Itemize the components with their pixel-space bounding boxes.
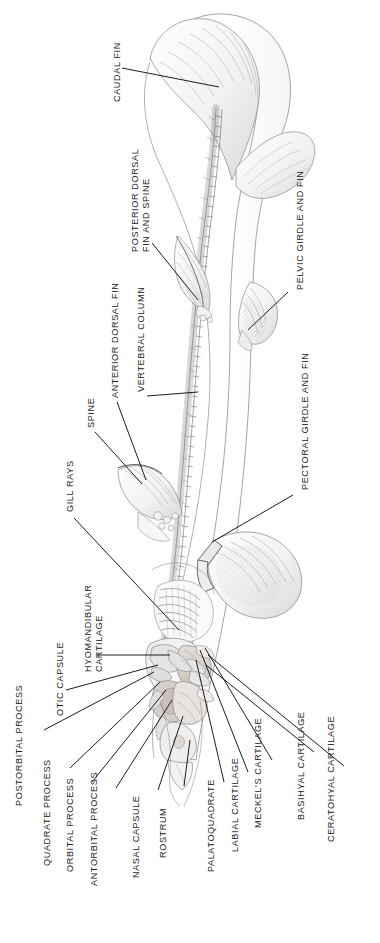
figure-page: CAUDAL FIN POSTERIOR DORSALFIN AND SPINE… xyxy=(0,0,380,943)
label-pectoral-girdle-and-fin: PECTORAL GIRDLE AND FIN xyxy=(300,352,311,490)
caudal-fin-shape xyxy=(150,19,315,199)
label-gill-rays: GILL RAYS xyxy=(65,460,76,512)
shark-skeleton-illustration xyxy=(0,0,380,943)
label-posterior-dorsal-fin-and-spine: POSTERIOR DORSALFIN AND SPINE xyxy=(130,149,153,252)
leader-quadrate xyxy=(70,682,160,768)
label-spine: SPINE xyxy=(86,398,97,428)
label-quadrate-process: QUADRATE PROCESS xyxy=(42,759,53,866)
label-anterior-dorsal-fin: ANTERIOR DORSAL FIN xyxy=(110,282,121,398)
label-meckels-cartilage: MECKEL'S CARTILAGE xyxy=(253,718,264,828)
label-palatoquadrate: PALATOQUADRATE xyxy=(206,779,217,872)
label-orbital-process: ORBITAL PROCESS xyxy=(65,778,76,872)
label-basihyal-cartilage: BASIHYAL CARTILAGE xyxy=(296,711,307,820)
label-labial-cartilage: LABIAL CARTILAGE xyxy=(230,758,241,852)
leader-ceratohyal xyxy=(208,655,344,766)
label-nasal-capsule: NASAL CAPSULE xyxy=(131,795,142,878)
label-ceratohyal-cartilage: CERATOHYAL CARTILAGE xyxy=(326,716,337,842)
label-pelvic-girdle-and-fin: PELVIC GIRDLE AND FIN xyxy=(295,171,306,290)
label-rostrum: ROSTRUM xyxy=(158,808,169,858)
label-caudal-fin: CAUDAL FIN xyxy=(112,42,123,102)
label-postorbital-process: POSTORBITAL PROCESS xyxy=(14,685,25,806)
anterior-dorsal-fin-shape xyxy=(118,465,182,542)
label-vertebral-column: VERTEBRAL COLUMN xyxy=(136,287,147,392)
label-antorbital-process: ANTORBITAL PROCESS xyxy=(89,772,100,886)
label-otic-capsule: OTIC CAPSULE xyxy=(55,642,66,716)
label-hyomandibular-cartilage: HYOMANDIBULARCARTILAGE xyxy=(83,585,106,672)
